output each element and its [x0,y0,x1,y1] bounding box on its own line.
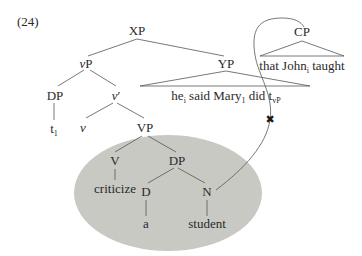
branch-xp-vp [88,39,137,56]
yp-yield-he: he [171,88,183,103]
yp-triangle [140,71,310,86]
node-v: V [110,154,119,168]
node-yp: YP [218,57,235,71]
branch-vp-vbar [90,70,116,86]
index-1: 1 [54,129,58,138]
node-v-bar-prime: ′ [117,88,120,103]
node-v-bar: v′ [112,89,121,103]
cp-yield-text: that Johni taught [259,59,344,73]
cp-triangle [260,41,344,56]
word-a: a [143,217,149,231]
node-n: N [202,185,211,199]
cp-yield-that-john: that John [259,58,306,73]
branch-vbar-v [86,103,113,118]
node-vp-little: vP [79,57,92,71]
node-v-head: v [80,121,86,135]
branch-xp-yp [137,39,224,56]
node-vp-little-p: P [85,56,92,71]
node-dp-spec: DP [47,89,64,103]
yp-yield-text: hei said Mary1 did tvP [171,89,280,103]
word-criticize: criticize [94,182,136,196]
word-student: student [188,217,226,231]
node-vp: VP [137,121,154,135]
example-number: (24) [17,15,39,29]
node-d: D [141,185,150,199]
node-cp: CP [294,25,310,39]
node-xp: XP [129,24,146,38]
yp-yield-said-mary: said Mary [186,88,242,103]
cp-yield-taught: taught [309,58,345,73]
branch-vbar-vp [117,103,144,118]
trace-t1: t1 [50,122,58,136]
branch-vp-dp [58,70,84,86]
index-vp: vP [272,96,280,105]
blocked-x-marker: ✖ [265,113,274,126]
yp-yield-did-t: did t [245,88,272,103]
node-dp-obj: DP [169,154,186,168]
